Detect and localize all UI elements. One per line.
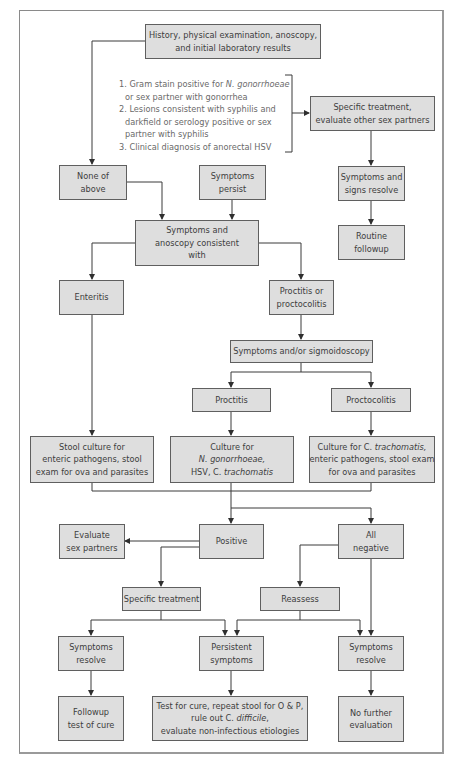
box-text: sex partners <box>66 542 117 555</box>
box-text: , <box>266 713 269 723</box>
symptoms-resolve-left-box: Symptoms resolve <box>58 636 124 671</box>
box-text: test of cure <box>68 719 115 732</box>
no-further-evaluation-box: No further evaluation <box>338 696 404 742</box>
symptoms-resolve-right-box: Symptoms resolve <box>338 636 404 671</box>
reassess-box: Reassess <box>260 587 340 611</box>
specific-treatment-evaluate-partners-box: Specific treatment, evaluate other sex p… <box>310 96 435 131</box>
box-text: for ova and parasites <box>329 466 416 479</box>
criteria-list: 1. Gram stain positive for N. gonorrhoea… <box>119 78 291 154</box>
specific-treatment-box: Specific treatment <box>122 587 201 611</box>
criteria-item-1-cont: or sex partner with gonorrhea <box>119 91 291 104</box>
criteria-item-2-cont: partner with syphilis <box>119 128 291 141</box>
all-negative-box: All negative <box>338 524 404 559</box>
criteria-item-3: 3. Clinical diagnosis of anorectal HSV <box>119 141 291 154</box>
box-text: Stool culture for <box>59 441 125 454</box>
box-text: Enteritis <box>74 291 108 304</box>
box-text: Routine <box>356 230 387 243</box>
symptoms-anoscopy-box: Symptoms and anoscopy consistent with <box>135 220 259 266</box>
box-text: Symptoms <box>211 170 255 183</box>
criteria-text-italic: N. gonorrhoeae <box>226 79 290 89</box>
box-text: followup <box>354 243 389 256</box>
box-text: All <box>366 529 376 542</box>
test-for-cure-box: Test for cure, repeat stool for O & P, r… <box>152 696 308 741</box>
sigmoidoscopy-box: Symptoms and/or sigmoidoscopy <box>230 340 373 363</box>
box-text: Proctocolitis <box>346 394 396 407</box>
criteria-item-1: 1. Gram stain positive for N. gonorrhoea… <box>119 78 291 91</box>
box-text: Test for cure, repeat stool for O & P, <box>157 700 304 713</box>
proctitis-box: Proctitis <box>192 388 271 412</box>
box-text: evaluate non-infectious etiologies <box>161 725 300 738</box>
box-text: above <box>80 183 105 196</box>
box-text: exam for ova and parasites <box>36 466 148 479</box>
box-text: resolve <box>76 654 106 667</box>
criteria-item-2: 2. Lesions consistent with syphilis and <box>119 103 291 116</box>
proctitis-or-proctocolitis-box: Proctitis or proctocolitis <box>269 280 334 315</box>
history-exam-box: History, physical examination, anoscopy,… <box>145 24 321 59</box>
box-text: Evaluate <box>74 529 110 542</box>
box-text-line: rule out C. difficile, <box>191 712 269 725</box>
box-text: History, physical examination, anoscopy, <box>149 29 317 42</box>
none-of-above-box: None of above <box>59 165 127 200</box>
box-text: Symptoms <box>349 641 393 654</box>
box-text: and initial laboratory results <box>175 42 290 55</box>
box-text: Persistent <box>211 641 252 654</box>
box-text: resolve <box>356 654 386 667</box>
proctocolitis-box: Proctocolitis <box>331 388 411 412</box>
box-text: Proctitis <box>215 394 248 407</box>
box-text: Symptoms and <box>166 224 228 237</box>
persistent-symptoms-box: Persistent symptoms <box>199 636 264 671</box>
box-text: None of <box>77 170 109 183</box>
box-text-line: HSV, C. trachomatis <box>191 466 273 479</box>
box-text: evaluation <box>349 719 392 732</box>
box-text: rule out C. <box>191 713 236 723</box>
box-text: Reassess <box>281 593 318 606</box>
box-text: enteric pathogens, stool <box>42 453 142 466</box>
routine-followup-box: Routine followup <box>338 225 405 260</box>
box-text: negative <box>353 542 389 555</box>
box-text: No further <box>350 707 392 720</box>
box-text: enteric pathogens, stool exam <box>310 453 435 466</box>
box-text-italic: trachomatis <box>224 467 273 477</box>
box-text: with <box>188 249 205 262</box>
box-text: Culture for <box>210 441 254 454</box>
box-text: persist <box>219 183 247 196</box>
box-text-italic: trachomatis, <box>375 442 427 452</box>
evaluate-sex-partners-box: Evaluate sex partners <box>59 524 125 559</box>
box-text: HSV, C. <box>191 467 224 477</box>
box-text: Followup <box>73 706 109 719</box>
box-text: Proctitis or <box>280 285 324 298</box>
box-text: Specific treatment, <box>333 101 411 114</box>
box-text: anoscopy consistent <box>155 237 239 250</box>
box-text: evaluate other sex partners <box>316 114 430 127</box>
criteria-text: 1. Gram stain positive for <box>119 79 226 89</box>
stool-culture-box: Stool culture for enteric pathogens, sto… <box>30 436 154 483</box>
criteria-item-2-cont: darkfield or serology positive or sex <box>119 116 291 129</box>
box-text: Culture for C. <box>318 442 375 452</box>
culture-ct-enteric-box: Culture for C. trachomatis, enteric path… <box>309 436 435 483</box>
symptoms-signs-resolve-box: Symptoms and signs resolve <box>338 166 405 201</box>
box-text: Positive <box>216 535 248 548</box>
box-text: Symptoms and <box>341 171 403 184</box>
box-text-italic: N. gonorrhoeae, <box>199 453 265 466</box>
box-text: proctocolitis <box>277 298 327 311</box>
box-text: Symptoms and/or sigmoidoscopy <box>233 345 369 358</box>
enteritis-box: Enteritis <box>59 280 124 315</box>
box-text: symptoms <box>210 654 253 667</box>
box-text-italic: difficile <box>237 713 267 723</box>
box-text: Specific treatment <box>124 593 200 606</box>
symptoms-persist-box: Symptoms persist <box>199 165 266 200</box>
positive-box: Positive <box>199 524 264 559</box>
box-text: signs resolve <box>345 184 398 197</box>
followup-test-of-cure-box: Followup test of cure <box>58 696 124 741</box>
culture-ng-hsv-ct-box: Culture for N. gonorrhoeae, HSV, C. trac… <box>170 436 294 483</box>
box-text-line: Culture for C. trachomatis, <box>318 441 427 454</box>
box-text: Symptoms <box>69 641 113 654</box>
